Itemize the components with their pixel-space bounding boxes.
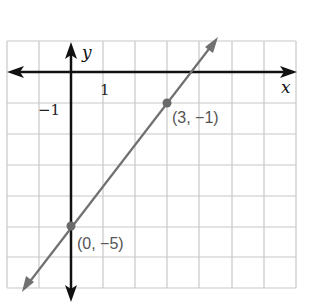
point-3-neg1: [163, 99, 172, 108]
point-0-neg5: [67, 222, 76, 231]
coordinate-graph: y x 1 −1 (3, −1) (0, −5): [0, 0, 316, 307]
x-tick-label: 1: [100, 81, 110, 99]
y-tick-label: −1: [38, 101, 60, 119]
y-axis-label: y: [81, 42, 92, 62]
x-axis: [7, 66, 297, 78]
y-axis: [65, 42, 77, 302]
x-axis-label: x: [281, 77, 291, 97]
grid: [7, 41, 296, 288]
point-label-3-neg1: (3, −1): [172, 109, 219, 126]
point-label-0-neg5: (0, −5): [77, 235, 124, 252]
